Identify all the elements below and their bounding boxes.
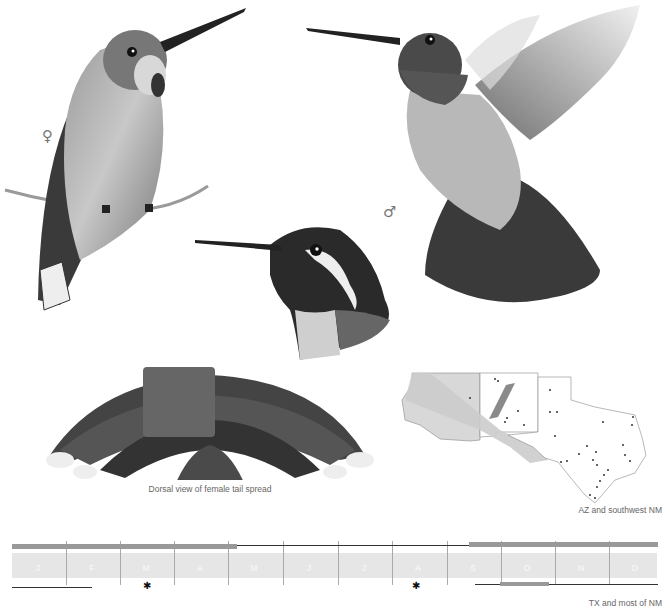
map-caption-az-nm: AZ and southwest NM [578,505,662,515]
female-tail-dorsal-illustration [40,360,380,480]
az-nm-rare-line-may-sep [237,545,469,546]
map-caption-tx-nm: TX and most of NM [589,598,662,608]
tx-nm-rare-line-jan-feb [12,587,92,588]
month-label: J [338,563,390,573]
month-label: M [120,563,172,573]
month-label: F [66,563,118,573]
tx-nm-record-marker-aug: ✱ [412,580,420,591]
tail-caption: Dorsal view of female tail spread [0,484,420,494]
month-label: J [283,563,335,573]
range-map [390,365,670,505]
male-head-illustration [190,215,400,375]
month-label: A [392,563,444,573]
female-symbol: ♀ [42,127,53,145]
tx-nm-record-marker-mar: ✱ [143,580,151,591]
month-label: O [501,563,553,573]
month-label: D [609,563,661,573]
month-label: M [228,563,280,573]
month-label: N [555,563,607,573]
month-label: S [447,563,499,573]
tx-nm-uncommon-bar-oct [500,582,549,586]
month-label: J [12,563,64,573]
month-label: A [174,563,226,573]
az-nm-abundant-bar-sep-dec [469,542,658,547]
az-nm-abundant-bar-jan-may [12,544,237,549]
